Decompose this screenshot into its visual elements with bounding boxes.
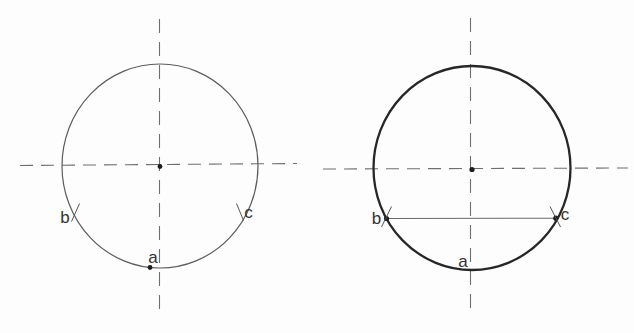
left-label-a: a: [148, 248, 158, 267]
right-label-b: b: [372, 209, 381, 228]
left-label-c: c: [244, 203, 253, 222]
left-diagram-svg: a b c: [0, 0, 317, 333]
right-circle-diagram: a b c: [317, 0, 634, 333]
left-point-c-tick: [237, 204, 244, 221]
drawing-canvas: a b c a b c: [0, 0, 634, 333]
right-diagram-svg: a b c: [317, 0, 634, 333]
left-center-dot: [158, 164, 163, 169]
right-horizontal-centerline: [323, 168, 628, 169]
right-label-a: a: [458, 252, 468, 271]
right-center-dot: [469, 167, 474, 172]
left-circle-diagram: a b c: [0, 0, 317, 333]
left-label-b: b: [60, 208, 69, 227]
right-label-c: c: [561, 205, 570, 224]
